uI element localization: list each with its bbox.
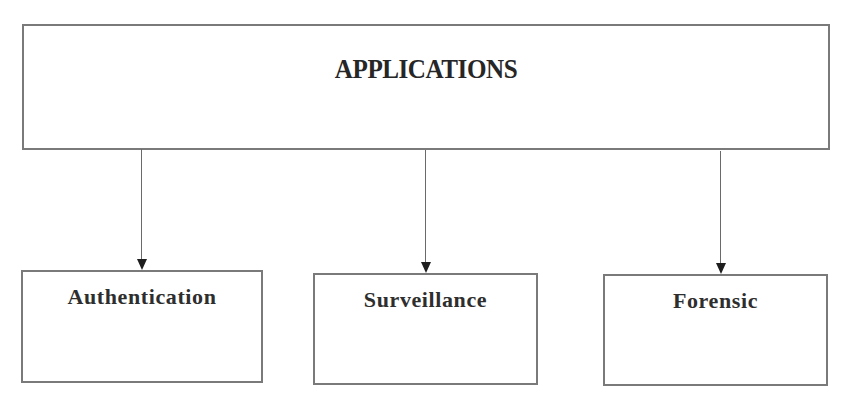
arrowhead-icon: [137, 259, 147, 270]
forensic-node: Forensic: [603, 274, 828, 386]
arrowhead-icon: [421, 262, 431, 273]
authentication-node: Authentication: [21, 270, 263, 383]
forensic-label: Forensic: [605, 288, 826, 314]
applications-node: APPLICATIONS: [22, 24, 830, 150]
authentication-label: Authentication: [23, 284, 261, 310]
applications-label: APPLICATIONS: [52, 54, 800, 85]
connector-line-surveillance: [425, 150, 426, 262]
connector-line-authentication: [141, 149, 142, 259]
surveillance-label: Surveillance: [315, 287, 536, 313]
surveillance-node: Surveillance: [313, 273, 538, 385]
connector-line-forensic: [720, 151, 721, 263]
arrowhead-icon: [716, 263, 726, 274]
